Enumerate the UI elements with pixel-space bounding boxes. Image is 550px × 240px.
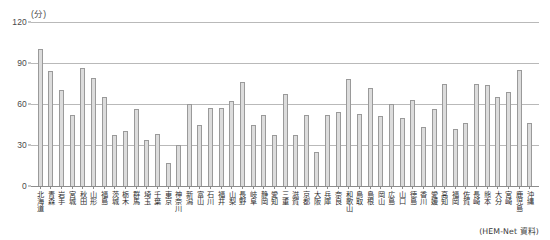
bar	[346, 79, 351, 186]
bar	[304, 115, 309, 186]
x-axis-cell: 新潟	[184, 186, 195, 238]
bar-cell	[46, 22, 57, 186]
x-tick-label: 大分	[494, 191, 502, 205]
source-note: (HEM-Net 資料)	[479, 225, 539, 236]
x-tick-label: 高知	[441, 191, 449, 205]
bar	[336, 112, 341, 186]
bar	[357, 114, 362, 186]
bar-cell	[35, 22, 46, 186]
x-tick-label: 千葉	[154, 191, 162, 205]
x-axis-cell: 福井	[216, 186, 227, 238]
x-axis-cell: 岐阜	[248, 186, 259, 238]
x-tick-mark	[391, 186, 392, 189]
x-tick-label: 栃木	[122, 191, 130, 205]
x-axis-cell: 福岡	[450, 186, 461, 238]
bar	[400, 118, 405, 186]
x-axis-category-labels: 北海道青森岩手宮城秋田山形福島茨城栃木群馬埼玉千葉東京神奈川新潟富山石川福井山梨…	[31, 186, 539, 238]
x-tick-label: 兵庫	[324, 191, 332, 205]
x-tick-mark	[253, 186, 254, 189]
bar-cell	[205, 22, 216, 186]
bar	[80, 68, 85, 186]
x-tick-mark	[402, 186, 403, 189]
x-tick-mark	[348, 186, 349, 189]
bar	[368, 88, 373, 186]
x-tick-label: 愛知	[271, 191, 279, 205]
x-axis-cell: 岡山	[376, 186, 387, 238]
x-tick-label: 山口	[398, 191, 406, 205]
bar-cell	[216, 22, 227, 186]
x-axis-cell: 秋田	[78, 186, 89, 238]
x-axis-cell: 東京	[163, 186, 174, 238]
bar	[166, 163, 171, 186]
bar	[389, 104, 394, 186]
x-tick-label: 福井	[217, 191, 225, 205]
x-tick-mark	[487, 186, 488, 189]
bar-cell	[461, 22, 472, 186]
bar	[453, 129, 458, 186]
bar	[197, 125, 202, 187]
x-axis-cell: 富山	[195, 186, 206, 238]
bar	[293, 135, 298, 186]
chart-root: (分) 0306090120 北海道青森岩手宮城秋田山形福島茨城栃木群馬埼玉千葉…	[0, 0, 550, 240]
bar	[432, 109, 437, 186]
bar-cell	[365, 22, 376, 186]
bar	[251, 125, 256, 187]
x-tick-mark	[104, 186, 105, 189]
x-axis-cell: 千葉	[152, 186, 163, 238]
x-tick-label: 神奈川	[175, 191, 183, 212]
x-tick-label: 徳島	[409, 191, 417, 205]
x-tick-mark	[61, 186, 62, 189]
x-tick-mark	[370, 186, 371, 189]
bar-cell	[184, 22, 195, 186]
x-tick-mark	[380, 186, 381, 189]
x-tick-label: 埼玉	[143, 191, 151, 205]
bar-cell	[354, 22, 365, 186]
x-axis-cell: 山形	[88, 186, 99, 238]
x-tick-label: 石川	[207, 191, 215, 205]
x-tick-mark	[529, 186, 530, 189]
bar-cell	[109, 22, 120, 186]
x-tick-mark	[114, 186, 115, 189]
x-tick-mark	[157, 186, 158, 189]
bar-cell	[301, 22, 312, 186]
bar-cell	[322, 22, 333, 186]
x-tick-mark	[338, 186, 339, 189]
bar	[325, 115, 330, 186]
x-axis-cell: 群馬	[131, 186, 142, 238]
x-tick-mark	[519, 186, 520, 189]
x-tick-label: 滋賀	[292, 191, 300, 205]
bar-cell	[493, 22, 504, 186]
x-tick-label: 鹿児島	[515, 191, 523, 212]
bar	[378, 116, 383, 186]
x-tick-label: 佐賀	[462, 191, 470, 205]
bar-cell	[67, 22, 78, 186]
x-tick-mark	[189, 186, 190, 189]
bar	[91, 78, 96, 186]
x-axis-cell: 石川	[205, 186, 216, 238]
x-tick-label: 三重	[281, 191, 289, 205]
x-tick-label: 香川	[420, 191, 428, 205]
bar	[123, 131, 128, 186]
x-tick-label: 長野	[239, 191, 247, 205]
bar	[314, 152, 319, 186]
bar-cell	[152, 22, 163, 186]
x-tick-label: 熊本	[483, 191, 491, 205]
x-axis-cell: 大阪	[312, 186, 323, 238]
x-tick-mark	[72, 186, 73, 189]
bar	[187, 104, 192, 186]
x-tick-label: 宮崎	[505, 191, 513, 205]
bar-cell	[88, 22, 99, 186]
bar	[527, 123, 532, 186]
x-tick-mark	[465, 186, 466, 189]
x-tick-label: 宮城	[68, 191, 76, 205]
x-tick-label: 島根	[366, 191, 374, 205]
x-axis-cell: 兵庫	[322, 186, 333, 238]
x-tick-label: 新潟	[185, 191, 193, 205]
x-tick-label: 長崎	[473, 191, 481, 205]
bar-cell	[99, 22, 110, 186]
x-axis-cell: 宮城	[67, 186, 78, 238]
bar	[410, 100, 415, 186]
x-axis-cell: 長野	[237, 186, 248, 238]
x-tick-mark	[231, 186, 232, 189]
x-tick-label: 北海道	[37, 191, 45, 212]
